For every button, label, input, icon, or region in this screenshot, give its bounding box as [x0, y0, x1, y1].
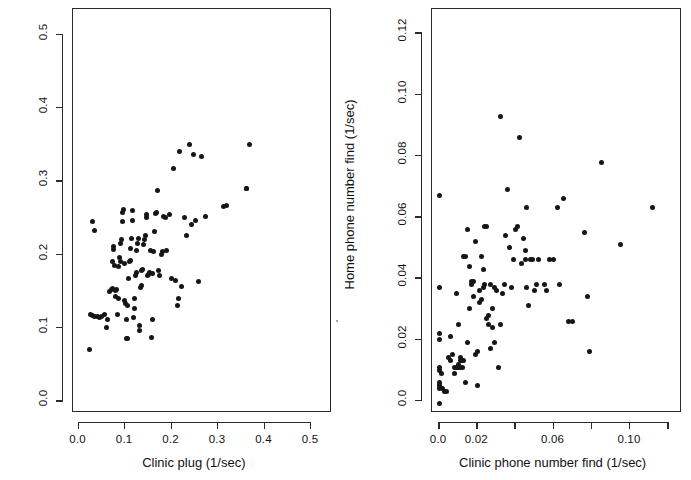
data-point — [479, 254, 484, 259]
data-point — [454, 291, 459, 296]
data-point — [486, 313, 491, 318]
data-point — [173, 278, 178, 283]
x-tick — [591, 422, 592, 429]
y-tick — [56, 254, 63, 255]
data-point — [115, 312, 120, 317]
data-point — [121, 207, 126, 212]
x-tick — [476, 422, 477, 429]
data-point — [498, 114, 503, 119]
y-tick-label: 0.3 — [37, 163, 49, 193]
data-point — [189, 222, 194, 227]
data-point — [482, 282, 487, 287]
data-point — [90, 219, 95, 224]
x-axis-line — [78, 422, 310, 423]
data-point — [467, 306, 472, 311]
data-point — [140, 267, 145, 272]
data-point — [467, 264, 472, 269]
y-tick-label: 0.12 — [396, 15, 408, 45]
x-tick — [553, 422, 554, 429]
data-point — [471, 279, 476, 284]
data-point — [521, 236, 526, 241]
data-point — [448, 334, 453, 339]
y-tick — [415, 155, 422, 156]
data-point — [503, 233, 508, 238]
data-point — [479, 297, 484, 302]
data-point — [536, 257, 541, 262]
data-point — [128, 258, 133, 263]
data-point — [582, 230, 587, 235]
data-point — [128, 246, 133, 251]
x-axis-title-right: Clinic phone number find (1/sec) — [459, 455, 646, 470]
y-tick — [56, 34, 63, 35]
data-point — [465, 227, 470, 232]
data-point — [157, 273, 162, 278]
data-point — [131, 315, 136, 320]
data-point — [144, 212, 149, 217]
data-point — [524, 285, 529, 290]
data-point — [134, 270, 139, 275]
data-point — [142, 237, 147, 242]
data-point — [439, 371, 444, 376]
data-point — [116, 296, 121, 301]
data-point — [129, 236, 134, 241]
data-point — [490, 325, 495, 330]
data-point — [105, 317, 110, 322]
x-tick — [171, 422, 172, 429]
data-point — [452, 371, 457, 376]
data-point — [150, 317, 155, 322]
data-point — [542, 282, 547, 287]
data-point — [481, 267, 486, 272]
data-point — [492, 340, 497, 345]
y-tick — [415, 400, 422, 401]
data-point — [187, 142, 192, 147]
data-point — [193, 218, 198, 223]
y-axis-title-right: Home phone number find (1/sec) — [341, 140, 356, 290]
data-point — [164, 248, 169, 253]
y-tick — [56, 327, 63, 328]
data-point — [137, 328, 142, 333]
data-point — [437, 285, 442, 290]
plot-area-left — [72, 8, 331, 412]
data-point — [136, 236, 141, 241]
y-axis-line — [62, 34, 63, 401]
data-point — [244, 186, 249, 191]
data-point — [465, 340, 470, 345]
data-point — [437, 401, 442, 406]
x-tick-label: 0.10 — [617, 433, 640, 445]
data-point — [544, 288, 549, 293]
data-point — [132, 306, 137, 311]
data-point — [507, 245, 512, 250]
x-tick — [667, 422, 668, 429]
data-point — [456, 322, 461, 327]
data-point — [182, 215, 187, 220]
x-tick — [629, 422, 630, 429]
x-tick — [217, 422, 218, 429]
data-point — [475, 383, 480, 388]
x-tick-label: 0.4 — [255, 433, 272, 445]
x-tick — [514, 422, 515, 429]
data-point — [437, 331, 442, 336]
data-point — [555, 205, 560, 210]
data-point — [247, 142, 252, 147]
data-point — [125, 336, 130, 341]
x-tick-label: 0.06 — [541, 433, 564, 445]
y-tick — [56, 107, 63, 108]
data-point — [515, 224, 520, 229]
y-tick-label: 0.1 — [37, 310, 49, 340]
data-point — [87, 347, 92, 352]
y-tick-label: 0.08 — [396, 138, 408, 168]
x-tick-label: 0.0 — [69, 433, 86, 445]
x-tick — [124, 422, 125, 429]
panel-left: 0.00.10.20.30.40.50.00.10.20.30.40.5 Cli… — [0, 0, 346, 480]
data-point — [130, 218, 135, 223]
data-point — [570, 319, 575, 324]
data-point — [120, 219, 125, 224]
x-tick-label: 0.2 — [162, 433, 179, 445]
y-tick-label: 0.0 — [37, 383, 49, 413]
y-tick — [415, 277, 422, 278]
data-point — [122, 261, 127, 266]
y-tick-label: 0.0 — [396, 383, 408, 413]
data-point — [505, 187, 510, 192]
data-point — [496, 365, 501, 370]
data-point — [196, 279, 201, 284]
